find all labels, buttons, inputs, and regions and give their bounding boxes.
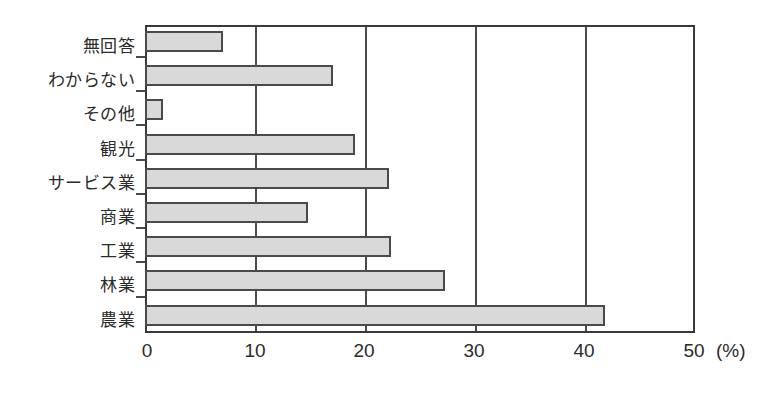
y-axis-label-3: 観光: [10, 135, 145, 160]
x-axis-labels: 0 10 20 30 40 50 (%): [0, 340, 770, 370]
y-axis-labels: 無回答 わからない その他 観光 サービス業 商業 工業 林業 農業: [0, 25, 145, 333]
bar-5: [145, 202, 308, 223]
x-axis-label-30: 30: [463, 340, 484, 362]
x-axis-label-0: 0: [142, 340, 153, 362]
bar-1: [145, 65, 333, 86]
bars-layer: [145, 25, 695, 333]
bar-band: [145, 299, 695, 333]
bar-band: [145, 196, 695, 230]
y-axis-label-6: 工業: [10, 237, 145, 262]
bar-band: [145, 128, 695, 162]
bar-band: [145, 230, 695, 264]
bar-band: [145, 162, 695, 196]
y-axis-label-8: 農業: [10, 306, 145, 331]
y-axis-label-1: わからない: [10, 66, 145, 91]
bar-7: [145, 270, 445, 291]
bar-band: [145, 93, 695, 127]
bar-8: [145, 305, 605, 326]
x-axis-label-10: 10: [244, 340, 265, 362]
y-axis-label-4: サービス業: [10, 169, 145, 194]
bar-band: [145, 25, 695, 59]
x-axis-unit-label: (%): [716, 340, 746, 362]
bar-6: [145, 236, 391, 257]
bar-band: [145, 264, 695, 298]
bar-2: [145, 99, 163, 120]
bar-4: [145, 168, 389, 189]
x-axis-label-40: 40: [573, 340, 594, 362]
bar-band: [145, 59, 695, 93]
bar-0: [145, 31, 223, 52]
bar-3: [145, 134, 355, 155]
x-axis-label-20: 20: [353, 340, 374, 362]
y-axis-label-7: 林業: [10, 271, 145, 296]
y-axis-label-2: その他: [10, 100, 145, 125]
y-axis-label-5: 商業: [10, 203, 145, 228]
x-axis-label-50: 50: [683, 340, 704, 362]
y-axis-label-0: 無回答: [10, 32, 145, 57]
bar-chart: 無回答 わからない その他 観光 サービス業 商業 工業 林業 農業 0 10 …: [0, 0, 770, 401]
